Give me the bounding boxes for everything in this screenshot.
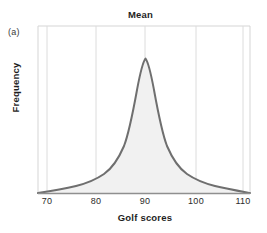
x-tick-label-100: 100 <box>181 196 211 206</box>
distribution-area-fill <box>38 59 250 194</box>
x-axis-label: Golf scores <box>38 212 252 223</box>
x-tick-label-110: 110 <box>228 196 258 206</box>
x-tick-label-70: 70 <box>32 196 62 206</box>
figure-panel-a: (a) Mean Frequency 70 80 90 100 110 Golf… <box>0 0 267 233</box>
x-tick-label-80: 80 <box>81 196 111 206</box>
x-tick-label-90: 90 <box>130 196 160 206</box>
